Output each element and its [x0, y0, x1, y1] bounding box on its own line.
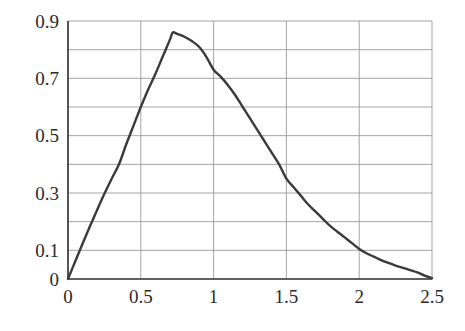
- y-tick-label: 0.1: [35, 240, 59, 261]
- x-tick-label: 0: [63, 286, 73, 307]
- x-tick-label: 0.5: [129, 286, 153, 307]
- x-tick-labels: 00.511.522.5: [63, 286, 444, 307]
- y-tick-label: 0: [50, 269, 60, 290]
- y-tick-labels: 00.10.30.50.70.9: [35, 11, 59, 290]
- x-tick-label: 2.5: [420, 286, 444, 307]
- x-tick-label: 2: [354, 286, 364, 307]
- y-tick-label: 0.7: [35, 68, 59, 89]
- axes: [68, 21, 432, 279]
- y-tick-label: 0.5: [35, 125, 59, 146]
- data-curve: [68, 32, 432, 279]
- line-chart: 00.10.30.50.70.900.511.522.5: [0, 0, 465, 331]
- chart-container: 00.10.30.50.70.900.511.522.5: [0, 0, 465, 331]
- y-tick-label: 0.9: [35, 11, 59, 32]
- x-tick-label: 1.5: [275, 286, 299, 307]
- gridlines: [68, 21, 432, 279]
- y-tick-label: 0.3: [35, 183, 59, 204]
- x-tick-label: 1: [209, 286, 219, 307]
